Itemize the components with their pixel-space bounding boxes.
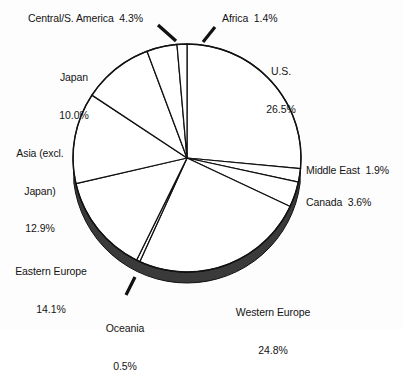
leader-line-oceania	[126, 277, 135, 295]
slice-label-japan: Japan 10.0%	[46, 46, 102, 146]
slice-label-canada: Canada 3.6%	[306, 196, 402, 209]
slice-label-western-europe-name: Western Europe	[218, 306, 328, 319]
slice-label-asia-name-line1: Asia (excl.	[6, 147, 74, 160]
slice-label-western-europe: Western Europe 24.8%	[218, 281, 328, 374]
slice-label-asia-value: 12.9%	[6, 222, 74, 235]
slice-label-oceania-name: Oceania	[92, 322, 158, 335]
slice-label-central-s-america: Central/S. America 4.3%	[28, 12, 168, 25]
slice-label-us-name: U.S.	[248, 65, 314, 78]
leader-line-africa	[203, 27, 215, 42]
slice-label-asia-name-line2: Japan)	[6, 185, 74, 198]
slice-label-oceania: Oceania 0.5%	[92, 297, 158, 374]
slice-label-africa: Africa 1.4%	[222, 12, 314, 25]
slice-label-eastern-europe-value: 14.1%	[4, 303, 98, 316]
leader-line-central-s-america	[158, 25, 176, 41]
slice-label-western-europe-value: 24.8%	[218, 344, 328, 357]
slice-label-japan-name: Japan	[46, 71, 102, 84]
slice-label-us-value: 26.5%	[248, 103, 314, 116]
slice-label-japan-value: 10.0%	[46, 109, 102, 122]
slice-label-eastern-europe-name: Eastern Europe	[4, 265, 98, 278]
slice-label-middle-east: Middle East 1.9%	[306, 164, 402, 177]
slice-label-oceania-value: 0.5%	[92, 360, 158, 373]
slice-label-us: U.S. 26.5%	[248, 40, 314, 140]
